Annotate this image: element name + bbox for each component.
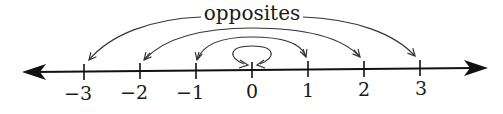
tick-label-0: 0 [246, 80, 258, 102]
tick-label-1: 1 [302, 79, 314, 101]
number-line-diagram: opposites −3 −2 [0, 0, 503, 114]
tick-label-neg3: −3 [64, 82, 92, 104]
tick-label-neg1: −1 [176, 81, 204, 103]
tick-labels: −3 −2 −1 0 1 2 3 [64, 77, 427, 104]
tick-label-neg2: −2 [120, 81, 148, 103]
tick-label-2: 2 [358, 78, 370, 100]
opposites-arc-1 [197, 37, 306, 60]
opposites-label: opposites [204, 1, 300, 25]
opposites-arc-2 [144, 28, 360, 60]
tick-label-3: 3 [415, 77, 427, 99]
